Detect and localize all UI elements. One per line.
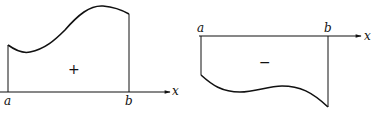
- positive-area-diagram: + a b x: [0, 6, 179, 108]
- x-axis-label: x: [172, 84, 179, 98]
- function-curve: [8, 6, 129, 53]
- x-axis-label: x: [364, 29, 371, 43]
- area-sign-diagrams: + a b x − a b x: [0, 0, 372, 117]
- function-curve: [201, 75, 328, 107]
- bound-b-label: b: [324, 21, 332, 35]
- bound-b-label: b: [125, 94, 133, 108]
- bound-a-label: a: [4, 94, 11, 108]
- sign-label: −: [259, 54, 271, 70]
- sign-label: +: [68, 61, 80, 77]
- negative-area-diagram: − a b x: [197, 21, 371, 107]
- bound-a-label: a: [197, 21, 204, 35]
